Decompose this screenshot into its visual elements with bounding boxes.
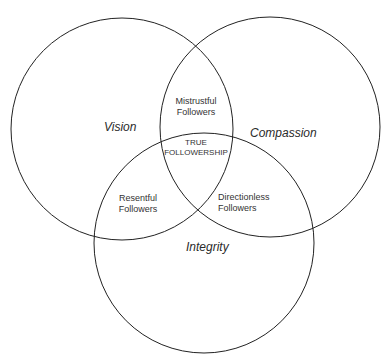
venn-diagram: [0, 0, 391, 363]
resentful-followers-label: Resentful Followers: [108, 193, 168, 215]
vision-label: Vision: [104, 120, 136, 134]
region-line: Followers: [108, 204, 168, 215]
directionless-followers-label: Directionless Followers: [218, 192, 288, 214]
region-line: Directionless: [218, 192, 288, 203]
region-line: Followers: [218, 203, 288, 214]
region-line: TRUE: [160, 138, 232, 148]
region-line: FOLLOWERSHIP: [160, 148, 232, 158]
region-line: Mistrustful: [166, 96, 226, 107]
mistrustful-followers-label: Mistrustful Followers: [166, 96, 226, 118]
region-line: Resentful: [108, 193, 168, 204]
compassion-label: Compassion: [250, 126, 317, 140]
region-line: Followers: [166, 107, 226, 118]
integrity-label: Integrity: [186, 240, 229, 254]
true-followership-label: TRUE FOLLOWERSHIP: [160, 138, 232, 158]
